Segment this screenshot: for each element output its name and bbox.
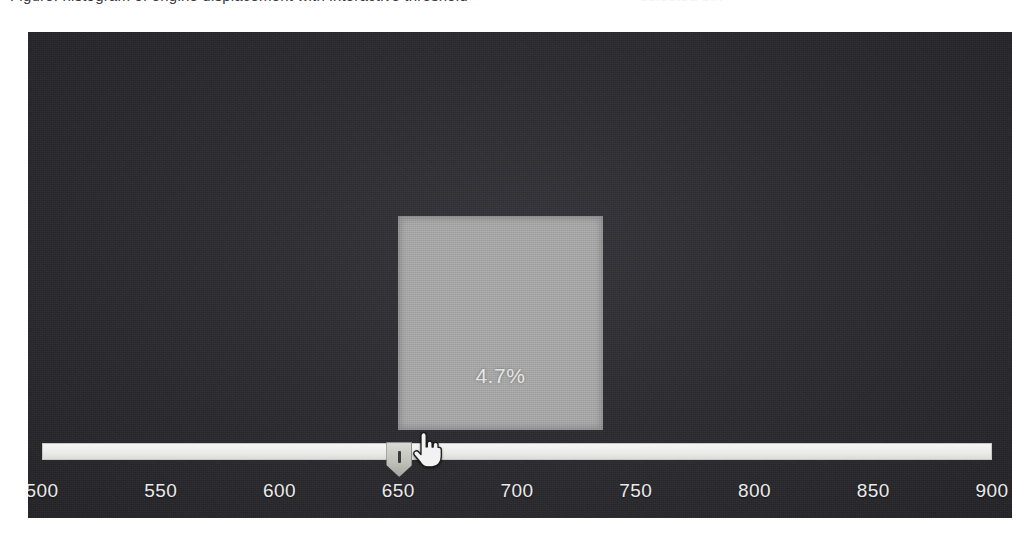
x-tick-label-500: 500 [28, 480, 58, 502]
x-tick-label-900: 900 [976, 480, 1009, 502]
chart-panel: 4.7% 500550600650700750800850900 [28, 32, 1012, 518]
x-tick-label-850: 850 [857, 480, 890, 502]
x-tick-label-550: 550 [144, 480, 177, 502]
bar-value-label: 4.7% [398, 364, 602, 388]
x-tick-label-700: 700 [501, 480, 534, 502]
x-tick-label-600: 600 [263, 480, 296, 502]
clipped-caption-right: selected bin [640, 0, 722, 4]
histogram-bar[interactable]: 4.7% [398, 216, 602, 430]
x-axis-tick-labels: 500550600650700750800850900 [28, 480, 1012, 514]
plot-area: 4.7% [28, 32, 1012, 438]
clipped-caption-left: Figure: histogram of engine displacement… [10, 0, 468, 4]
bar-noise-texture [398, 216, 602, 430]
x-tick-label-650: 650 [382, 480, 415, 502]
clipped-caption-strip: Figure: histogram of engine displacement… [0, 0, 1036, 14]
x-tick-label-800: 800 [738, 480, 771, 502]
threshold-slider-handle[interactable] [386, 442, 412, 477]
slider-handle-grip-icon [398, 451, 401, 463]
threshold-slider-track[interactable] [42, 443, 992, 460]
x-tick-label-750: 750 [619, 480, 652, 502]
